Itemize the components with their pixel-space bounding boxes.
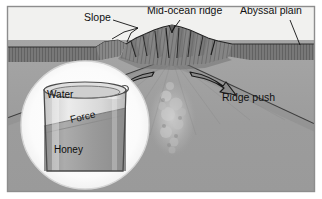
beaker-liquids xyxy=(44,92,126,171)
mid-ocean-ridge-diagram: Slope Mid-ocean ridge Abyssal plain Ridg… xyxy=(0,0,322,199)
label-water: Water xyxy=(47,89,74,100)
label-honey: Honey xyxy=(54,144,83,155)
diagram-canvas: Slope Mid-ocean ridge Abyssal plain Ridg… xyxy=(0,0,322,199)
label-slope: Slope xyxy=(84,11,111,23)
diagram-body: Slope Mid-ocean ridge Abyssal plain Ridg… xyxy=(7,4,315,192)
label-ridge-push: Ridge push xyxy=(222,91,275,103)
beaker-inset: Water Force Honey xyxy=(21,61,149,189)
beaker-highlight-right xyxy=(112,92,117,171)
beaker-highlight-left xyxy=(52,92,59,171)
crust-right-abyssal xyxy=(226,44,315,60)
